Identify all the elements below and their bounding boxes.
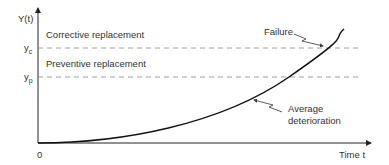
failure-arrow [294, 34, 323, 46]
average-label: Average [288, 104, 323, 114]
y-axis-label: Y(t) [18, 14, 33, 24]
diagram-canvas [0, 0, 389, 165]
preventive-region-label: Preventive replacement [46, 59, 146, 69]
failure-label: Failure [264, 27, 293, 37]
x-axis-label: Time t [339, 150, 365, 160]
yc-label: yc [24, 43, 32, 55]
origin-label: 0 [37, 150, 42, 160]
deterioration-label: deterioration [288, 116, 341, 126]
average-arrow [254, 100, 282, 112]
corrective-region-label: Corrective replacement [46, 30, 144, 40]
yp-label: yp [24, 72, 33, 84]
